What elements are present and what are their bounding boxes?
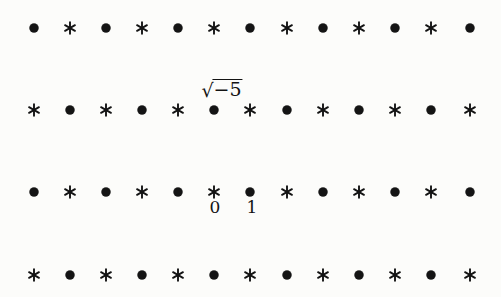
radicand-value: −5 bbox=[213, 79, 243, 99]
lattice-dot bbox=[174, 188, 183, 197]
lattice-star bbox=[388, 268, 402, 282]
lattice-dot bbox=[391, 24, 400, 33]
lattice-dot bbox=[246, 188, 255, 197]
lattice-dot bbox=[102, 188, 111, 197]
lattice-dot bbox=[283, 271, 292, 280]
lattice-star bbox=[171, 268, 185, 282]
lattice-dot bbox=[30, 188, 39, 197]
lattice-star bbox=[280, 21, 294, 35]
lattice-dot bbox=[466, 24, 475, 33]
lattice-star bbox=[352, 21, 366, 35]
lattice-dot bbox=[30, 24, 39, 33]
lattice-star bbox=[63, 185, 77, 199]
lattice-dot bbox=[66, 106, 75, 115]
lattice-dot bbox=[427, 106, 436, 115]
lattice-star bbox=[135, 185, 149, 199]
lattice-figure: √−501 bbox=[0, 0, 501, 297]
lattice-star bbox=[463, 103, 477, 117]
lattice-dot bbox=[427, 271, 436, 280]
lattice-dot bbox=[174, 24, 183, 33]
lattice-star bbox=[99, 268, 113, 282]
lattice-dot bbox=[138, 271, 147, 280]
lattice-star bbox=[352, 185, 366, 199]
lattice-dot bbox=[319, 188, 328, 197]
radical-label-sqrt-minus-five: √−5 bbox=[201, 79, 242, 99]
lattice-dot bbox=[283, 106, 292, 115]
lattice-star bbox=[388, 103, 402, 117]
lattice-dot bbox=[138, 106, 147, 115]
lattice-dot bbox=[210, 106, 219, 115]
lattice-star bbox=[424, 185, 438, 199]
point-label-one: 1 bbox=[247, 199, 258, 216]
lattice-dot bbox=[102, 24, 111, 33]
lattice-star bbox=[463, 268, 477, 282]
lattice-star bbox=[99, 103, 113, 117]
lattice-star bbox=[27, 268, 41, 282]
lattice-star bbox=[63, 21, 77, 35]
lattice-star bbox=[280, 185, 294, 199]
lattice-star bbox=[207, 21, 221, 35]
lattice-star bbox=[316, 268, 330, 282]
lattice-dot bbox=[246, 24, 255, 33]
lattice-star bbox=[243, 103, 257, 117]
lattice-star bbox=[316, 103, 330, 117]
lattice-star bbox=[424, 21, 438, 35]
lattice-dot bbox=[319, 24, 328, 33]
lattice-star bbox=[27, 103, 41, 117]
lattice-dot bbox=[391, 188, 400, 197]
lattice-star bbox=[171, 103, 185, 117]
lattice-dot bbox=[466, 188, 475, 197]
point-label-zero: 0 bbox=[210, 199, 221, 216]
lattice-dot bbox=[355, 106, 364, 115]
lattice-star bbox=[135, 21, 149, 35]
lattice-dot bbox=[355, 271, 364, 280]
lattice-dot bbox=[66, 271, 75, 280]
lattice-star bbox=[243, 268, 257, 282]
lattice-dot bbox=[210, 271, 219, 280]
